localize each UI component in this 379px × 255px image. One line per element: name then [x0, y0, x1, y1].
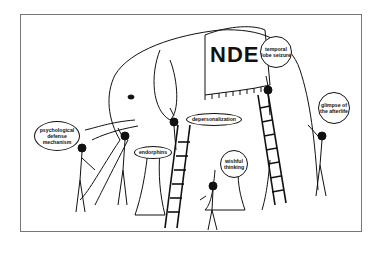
bubble-depersonalization: depersonalization	[186, 113, 242, 126]
bubble-endorphins: endorphins	[134, 146, 172, 159]
bubble-psychological-defense: psychological defense mechanism	[34, 121, 80, 151]
bubble-wishful-thinking: wishful thinking	[220, 150, 248, 178]
bubble-temporal-lobe-seizure: temporal lobe seizure	[260, 36, 292, 68]
nde-label: NDE	[210, 42, 259, 68]
bubble-glimpse-afterlife: glimpse of the afterlife	[318, 92, 350, 124]
